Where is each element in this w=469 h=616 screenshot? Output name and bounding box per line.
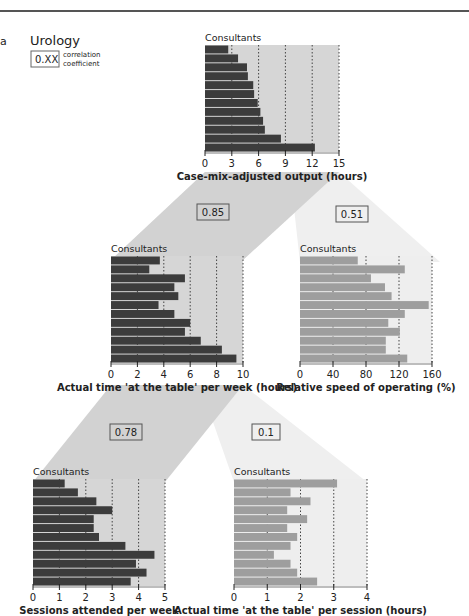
x-tick-label: 4 [161, 369, 167, 380]
bar [205, 46, 228, 54]
bar [205, 54, 238, 62]
x-tick-label: 5 [162, 592, 168, 603]
x-tick-label: 0 [30, 592, 36, 603]
bar [300, 328, 400, 336]
bar [33, 480, 65, 488]
bar [111, 337, 201, 345]
bar [234, 551, 274, 559]
chart-time-per-session: 01234ConsultantsActual time 'at the tabl… [174, 466, 427, 616]
bar [234, 480, 337, 488]
x-tick-label: 3 [229, 158, 235, 169]
correlation-value: 0.1 [258, 427, 274, 438]
bar [205, 72, 248, 80]
bar [33, 524, 94, 532]
x-tick-label: 8 [213, 369, 219, 380]
bar [300, 274, 371, 282]
bar [300, 337, 386, 345]
bar [205, 108, 260, 116]
bar [205, 135, 281, 143]
bar [234, 524, 287, 532]
bar [300, 310, 405, 318]
charts-layer: 03691215ConsultantsCase-mix-adjusted out… [19, 32, 455, 616]
legend: a Urology 0.XX correlation coefficient [0, 33, 101, 68]
bar [234, 506, 287, 514]
bar [33, 551, 154, 559]
x-axis-label: Actual time 'at the table' per week (hou… [57, 382, 297, 393]
chart-output: 03691215ConsultantsCase-mix-adjusted out… [177, 32, 367, 182]
x-tick-label: 15 [333, 158, 346, 169]
x-tick-label: 0 [202, 158, 208, 169]
bar [234, 569, 297, 577]
legend-caption-line2: coefficient [63, 60, 100, 68]
bar [300, 346, 386, 354]
panel-letter: a [0, 35, 7, 48]
chart-title: Consultants [205, 32, 261, 43]
bar [205, 63, 247, 71]
correlation-value: 0.85 [202, 207, 224, 218]
bar [234, 515, 307, 523]
x-tick-label: 2 [83, 592, 89, 603]
bar [33, 560, 136, 568]
bar [111, 346, 222, 354]
bar [234, 542, 291, 550]
bar [234, 560, 291, 568]
bar [300, 355, 407, 363]
bar [205, 81, 253, 89]
bar [300, 292, 392, 300]
bar [33, 515, 94, 523]
bar [205, 99, 258, 107]
x-tick-label: 4 [135, 592, 141, 603]
x-tick-label: 1 [56, 592, 62, 603]
figure-canvas: 03691215ConsultantsCase-mix-adjusted out… [0, 0, 469, 616]
x-tick-label: 9 [282, 158, 288, 169]
x-tick-label: 3 [109, 592, 115, 603]
bar [33, 506, 112, 514]
bar [205, 117, 263, 125]
bar [111, 265, 149, 273]
bar [111, 292, 178, 300]
bar [111, 301, 159, 309]
bar [300, 257, 358, 265]
legend-title: Urology [30, 33, 80, 48]
x-tick-label: 160 [422, 369, 441, 380]
bar [111, 310, 174, 318]
x-tick-label: 0 [231, 592, 237, 603]
x-axis-label: Sessions attended per week [19, 605, 179, 616]
bar [111, 355, 236, 363]
x-tick-label: 6 [187, 369, 193, 380]
x-tick-label: 2 [297, 592, 303, 603]
x-tick-label: 120 [389, 369, 408, 380]
bar [33, 533, 99, 541]
x-tick-label: 6 [255, 158, 261, 169]
x-tick-label: 10 [237, 369, 250, 380]
bar [111, 274, 185, 282]
x-axis-label: Relative speed of operating (%) [276, 382, 455, 393]
bar [33, 497, 96, 505]
chart-time-per-week: 0246810ConsultantsActual time 'at the ta… [57, 243, 297, 393]
x-tick-label: 4 [364, 592, 370, 603]
x-axis-label: Actual time 'at the table' per session (… [174, 605, 427, 616]
x-tick-label: 1 [264, 592, 270, 603]
bar [33, 578, 131, 586]
bar [205, 126, 265, 134]
chart-title: Consultants [300, 243, 356, 254]
bar [234, 578, 317, 586]
bar [111, 283, 174, 291]
bar [300, 265, 405, 273]
bar [205, 90, 254, 98]
legend-caption-line1: correlation [63, 51, 101, 59]
x-tick-label: 80 [360, 369, 373, 380]
x-tick-label: 2 [134, 369, 140, 380]
bar [33, 542, 125, 550]
bar [234, 533, 297, 541]
x-tick-label: 0 [108, 369, 114, 380]
chart-title: Consultants [234, 466, 290, 477]
x-axis-label: Case-mix-adjusted output (hours) [177, 171, 367, 182]
bar [300, 301, 429, 309]
legend-box-text: 0.XX [35, 54, 58, 65]
x-tick-label: 0 [297, 369, 303, 380]
bar [33, 569, 147, 577]
x-tick-label: 12 [306, 158, 319, 169]
bar [111, 328, 185, 336]
bar [111, 319, 190, 327]
